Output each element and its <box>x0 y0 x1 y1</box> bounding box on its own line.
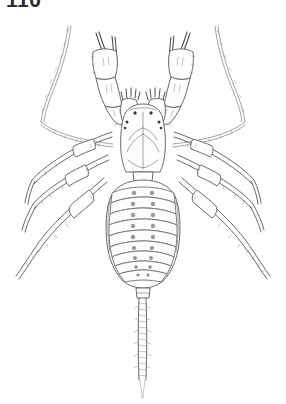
walking-leg-right-3 <box>177 155 264 232</box>
specimen-illustration <box>0 0 286 404</box>
flagellum-annulations <box>138 303 146 376</box>
walking-leg-right-2 <box>174 132 261 204</box>
carapace <box>121 104 166 172</box>
walking-leg-left-4 <box>16 178 107 279</box>
flagellum <box>134 288 151 398</box>
abdomen-segment-lines <box>109 187 177 282</box>
walking-leg-left-3 <box>22 155 109 232</box>
figure-page: 110 <box>0 0 286 404</box>
walking-leg-right-4 <box>179 178 270 279</box>
walking-leg-left-2 <box>25 132 112 204</box>
opisthosoma <box>106 180 180 288</box>
